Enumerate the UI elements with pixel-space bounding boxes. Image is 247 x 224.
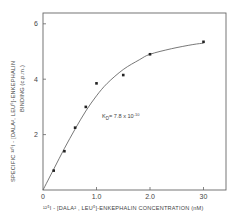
y-tick-label: 6	[34, 20, 38, 27]
data-point	[149, 53, 152, 56]
data-point	[52, 169, 55, 172]
x-tick-label: 30	[200, 193, 208, 200]
data-points	[52, 41, 204, 172]
data-point	[74, 126, 77, 129]
binding-chart: 01.02.030246 KD= 7.8 x 10-10 ¹²⁵I - [DAL…	[0, 0, 247, 224]
x-tick-label: 1.0	[92, 193, 102, 200]
kd-annotation: KD= 7.8 x 10-10	[102, 112, 140, 121]
data-point	[85, 106, 88, 109]
y-axis-label-line2: BINDING (c.p.m.)	[19, 65, 25, 112]
data-point	[202, 41, 205, 44]
x-axis-label: ¹²⁵I - [DALA² , LEU⁵]-ENKEPHALIN CONCENT…	[43, 205, 204, 211]
plot-frame	[43, 13, 226, 190]
x-tick-label: 2.0	[145, 193, 155, 200]
y-axis-label-line1: SPECIFIC ¹²⁵I - [DALA², LEU⁵]-ENKEPHALIN	[10, 61, 16, 182]
data-point	[122, 74, 125, 77]
y-tick-label: 2	[34, 131, 38, 138]
y-tick-label: 4	[34, 76, 38, 83]
x-tick-label: 0	[41, 193, 45, 200]
axis-ticks: 01.02.030246	[34, 20, 207, 200]
data-point	[63, 150, 66, 153]
data-point	[95, 82, 98, 85]
